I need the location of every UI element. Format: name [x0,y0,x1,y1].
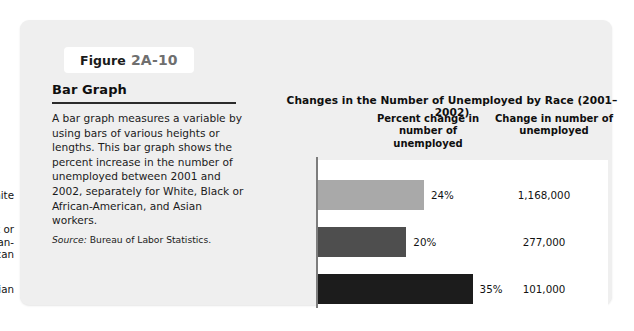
heading-divider [52,102,236,104]
bar-category-label-line: Black or [0,223,14,235]
figure-panel: Figure2A-10 Bar Graph A bar graph measur… [20,20,612,305]
panel-source-line: Source: Bureau of Labor Statistics. [52,233,252,246]
figure-number: 2A-10 [131,52,178,68]
figure-description-column: Bar Graph A bar graph measures a variabl… [52,82,252,246]
bar-rect [318,180,424,210]
bar-category-label-line: White [0,189,14,201]
bar-percent-label: 24% [431,189,454,201]
bar-category-label: Black orAfrican-American [0,223,14,260]
chart-column-headers: Percent change in number of unemployed C… [376,113,626,155]
column-header-percent-change: Percent change in number of unemployed [376,113,480,150]
panel-heading: Bar Graph [52,82,252,97]
bar-percent-label: 20% [413,236,436,248]
bar-category-label: Asian [0,283,14,295]
bar-count-value: 277,000 [484,236,604,248]
figure-number-tab: Figure2A-10 [64,47,194,73]
column-header-change-in-number: Change in number of unemployed [484,113,624,138]
bar-category-label: White [0,189,14,201]
bar-rect [318,274,473,304]
chart-vertical-axis [316,157,318,308]
source-label: Source: [52,234,87,245]
bar-count-value: 1,168,000 [484,189,604,201]
panel-body-text: A bar graph measures a variable by using… [52,111,248,228]
bar-category-label-line: African- [0,236,14,248]
source-text: Bureau of Labor Statistics. [90,234,211,245]
figure-label-word: Figure [80,53,126,68]
bar-category-label-line: American [0,248,14,260]
chart-plot-area: White24%1,168,000Black orAfrican-America… [316,160,608,308]
bar-count-value: 101,000 [484,283,604,295]
bar-rect [318,227,406,257]
bar-category-label-line: Asian [0,283,14,295]
